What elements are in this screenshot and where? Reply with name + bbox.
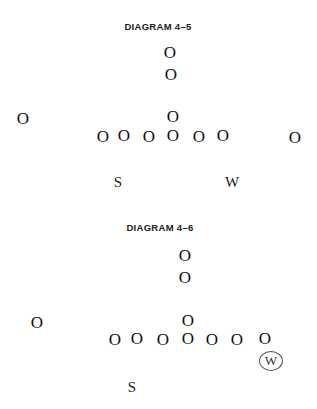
player-marker-line: O xyxy=(231,331,243,348)
position-label-w: W xyxy=(225,175,239,190)
player-marker-deep-back: O xyxy=(164,44,176,61)
player-marker-right-end: O xyxy=(289,129,301,146)
diagram-title: DIAGRAM 4–5 xyxy=(124,21,191,32)
player-marker-back: O xyxy=(179,269,191,286)
player-marker-line: O xyxy=(131,330,143,347)
player-marker-line: O xyxy=(206,331,218,348)
diagram-title: DIAGRAM 4–6 xyxy=(126,222,193,233)
player-marker-left-end: O xyxy=(17,110,29,127)
position-label-s: S xyxy=(114,175,122,190)
player-marker-line: O xyxy=(109,331,121,348)
player-marker-line: O xyxy=(118,127,130,144)
player-marker-line: O xyxy=(157,331,169,348)
player-marker-center-back: O xyxy=(182,312,194,329)
player-marker-deep-back: O xyxy=(179,247,191,264)
position-label-w: W xyxy=(259,351,283,371)
player-marker-line: O xyxy=(193,128,205,145)
player-marker-back: O xyxy=(165,66,177,83)
player-marker-line: O xyxy=(217,127,229,144)
player-marker-left-end: O xyxy=(31,314,43,331)
player-marker-line: O xyxy=(97,128,109,145)
player-marker-line: O xyxy=(143,128,155,145)
player-marker-line: O xyxy=(167,127,179,144)
player-marker-center-back: O xyxy=(167,108,179,125)
player-marker-line: O xyxy=(259,330,271,347)
position-label-s: S xyxy=(128,380,136,395)
player-marker-line: O xyxy=(182,330,194,347)
